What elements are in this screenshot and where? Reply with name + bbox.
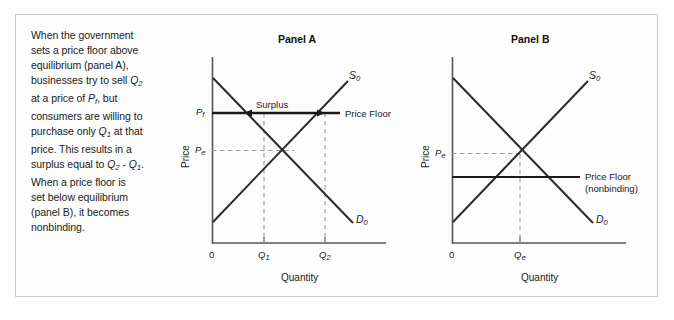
panel-b-quantity-tick-qe: Qe xyxy=(514,249,526,262)
panel-b-supply-curve-label: S0 xyxy=(589,69,600,83)
panel-b-price-floor-label: Price Floor xyxy=(585,171,631,183)
figure-root: When the governmentsets a price floor ab… xyxy=(0,0,674,320)
panel-b-plot xyxy=(0,0,674,320)
panel-b-price-tick-pe: Pe xyxy=(435,147,446,160)
panel-b-supply-curve xyxy=(453,81,588,222)
panel-b-demand-curve-label: D0 xyxy=(596,213,608,227)
panel-b-origin-label: 0 xyxy=(449,249,454,260)
panel-b-dashed-guides xyxy=(452,154,520,244)
panel-b-curves xyxy=(453,78,593,223)
panel-b-price-floor-sublabel: (nonbinding) xyxy=(585,183,638,195)
